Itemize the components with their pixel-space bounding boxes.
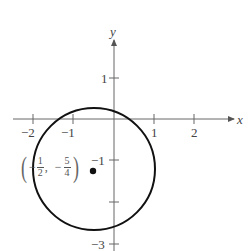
- coordinate-plane: y x −2 −1 1 2 1 −1 −3 ( − 1 2 , − 5 4 ): [0, 0, 250, 251]
- right-paren: ): [73, 152, 79, 182]
- x-tick-label-neg2: −2: [21, 126, 35, 139]
- y-numerator: 5: [64, 156, 71, 168]
- y-sign: −: [55, 160, 62, 175]
- y-axis-label: y: [110, 25, 116, 38]
- center-point: [90, 168, 96, 174]
- x-sign: −: [29, 160, 36, 175]
- x-axis-label: x: [237, 113, 243, 126]
- x-denominator: 2: [38, 168, 43, 179]
- center-point-label: ( − 1 2 , − 5 4 ): [19, 152, 81, 182]
- x-tick-label-2: 2: [191, 126, 198, 139]
- separator: ,: [45, 160, 48, 175]
- plot-svg: [0, 0, 250, 251]
- x-numerator: 1: [37, 156, 44, 168]
- left-paren: (: [21, 152, 27, 182]
- y-tick-label-neg1: −1: [91, 154, 105, 167]
- x-fraction: 1 2: [37, 156, 44, 178]
- x-tick-label-1: 1: [151, 126, 158, 139]
- x-tick-label-neg1: −1: [61, 126, 75, 139]
- y-tick-label-neg3: −3: [91, 238, 105, 251]
- y-fraction: 5 4: [64, 156, 71, 178]
- y-tick-label-1: 1: [101, 72, 108, 85]
- y-denominator: 4: [65, 168, 70, 179]
